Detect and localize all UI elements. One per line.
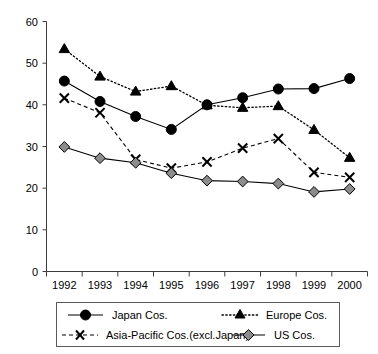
chart-legend: Japan Cos. Europe Cos. Asia-Pacific Cos.… [57,303,340,347]
x-tick-label-1995: 1995 [159,279,183,291]
data-point [309,124,319,133]
y-tick-label-20: 20 [26,182,38,194]
data-point [238,144,247,153]
circle-filled-icon [81,310,91,320]
chart-container: 60 50 40 30 20 10 0 1992 1993 1994 199 [0,0,378,354]
data-point [274,134,283,143]
x-tick-label-1998: 1998 [266,279,290,291]
legend-entry-japan-cos[interactable]: Japan Cos. [68,309,168,321]
data-point [344,184,355,195]
x-tick-label-1999: 1999 [302,279,326,291]
data-point [202,175,213,186]
data-point [95,97,105,107]
legend-label-us-cos: US Cos. [274,329,315,341]
data-point [95,108,104,117]
data-point [273,178,284,189]
x-tick-label-1992: 1992 [52,279,76,291]
data-point [59,44,69,53]
x-tick-label-2000: 2000 [337,279,361,291]
data-point [166,168,177,179]
data-point [345,74,355,84]
data-point [202,157,211,166]
data-point [309,187,320,198]
x-axis-ticks [47,272,368,277]
data-point [237,102,247,111]
x-tick-label-1996: 1996 [195,279,219,291]
y-tick-label-10: 10 [26,224,38,236]
x-tick-label-1993: 1993 [88,279,112,291]
x-tick-label-1994: 1994 [123,279,147,291]
y-tick-label-50: 50 [26,57,38,69]
y-axis-ticks [43,22,47,272]
data-point [238,93,248,103]
x-axis-tick-labels: 1992 1993 1994 1995 1996 1997 1998 1999 … [52,279,362,291]
data-point [130,157,141,168]
data-point [59,76,69,86]
line-chart: 60 50 40 30 20 10 0 1992 1993 1994 199 [0,0,378,354]
y-tick-label-30: 30 [26,141,38,153]
data-point [60,94,69,103]
data-point [95,71,105,80]
data-point [309,84,319,94]
y-axis-tick-labels: 60 50 40 30 20 10 0 [26,16,38,278]
y-tick-label-0: 0 [32,266,38,278]
data-point [273,101,283,110]
data-point [237,176,248,187]
legend-label-asia-pacific-cos: Asia-Pacific Cos.(excl.Japan) [106,329,249,341]
data-point [345,173,354,182]
data-point [166,124,176,134]
legend-label-europe-cos: Europe Cos. [266,309,327,321]
data-point [344,152,354,161]
data-point [59,142,70,153]
y-tick-label-40: 40 [26,99,38,111]
y-tick-label-60: 60 [26,16,38,28]
data-point [95,153,106,164]
series-layer [59,44,355,198]
x-tick-label-1997: 1997 [230,279,254,291]
data-point [166,81,176,90]
data-point [131,112,141,122]
legend-label-japan-cos: Japan Cos. [112,309,168,321]
data-point [273,84,283,94]
